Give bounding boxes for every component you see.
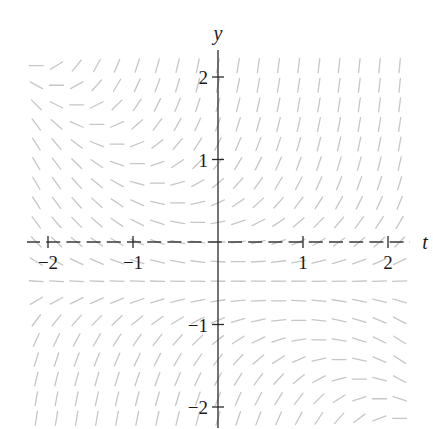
slope-mark (357, 157, 361, 171)
slope-mark (293, 375, 304, 384)
slope-mark (237, 59, 239, 73)
slope-mark (373, 357, 386, 362)
slope-mark (92, 179, 103, 188)
t-tick-label: 1 (298, 252, 308, 273)
slope-mark (332, 377, 346, 381)
slope-mark (111, 298, 124, 303)
slope-mark (75, 392, 78, 406)
slope-mark (298, 59, 300, 73)
slope-mark (92, 80, 101, 90)
slope-mark (256, 118, 260, 131)
slope-mark (192, 180, 204, 187)
slope-mark (156, 392, 160, 405)
slope-mark (251, 261, 265, 262)
slope-mark (335, 217, 344, 228)
slope-mark (111, 180, 123, 187)
slope-mark (156, 412, 159, 426)
slope-mark (51, 62, 63, 69)
slope-mark (175, 98, 180, 111)
slope-mark (397, 196, 402, 209)
slope-mark (191, 201, 205, 204)
y-tick-label: 1 (199, 150, 209, 171)
slope-mark (91, 102, 104, 108)
slope-mark (171, 181, 184, 185)
slope-mark (255, 157, 261, 170)
slope-mark (32, 315, 40, 326)
slope-mark (31, 100, 41, 110)
slope-mark (173, 139, 182, 150)
slope-mark (296, 177, 302, 189)
t-tick-label: −1 (123, 252, 143, 273)
slope-mark (399, 78, 400, 92)
slope-mark (292, 357, 305, 362)
slope-mark (357, 177, 362, 190)
slope-mark (399, 118, 401, 132)
slope-mark (72, 178, 81, 188)
slope-mark (92, 315, 102, 325)
slope-mark (297, 98, 300, 112)
slope-mark (336, 197, 343, 209)
slope-mark (358, 137, 361, 151)
slope-mark (50, 297, 62, 304)
slope-mark (315, 413, 323, 425)
slope-mark (278, 59, 280, 73)
slope-mark (294, 393, 303, 404)
slope-mark (54, 353, 58, 366)
slope-mark (235, 392, 241, 405)
slope-mark (33, 138, 41, 150)
slope-mark (136, 411, 139, 425)
slope-mark (338, 78, 340, 92)
slope-mark (393, 317, 405, 323)
slope-mark (32, 217, 40, 228)
slope-mark (154, 99, 160, 112)
slope-mark (153, 119, 161, 130)
slope-mark (30, 297, 42, 304)
slope-mark (354, 414, 365, 422)
y-axis-label: y (212, 22, 223, 45)
slope-mark (52, 158, 60, 169)
slope-mark (172, 317, 184, 324)
slope-mark (257, 78, 259, 92)
slope-mark (316, 177, 322, 190)
slope-mark (378, 137, 381, 151)
slope-mark (272, 338, 285, 342)
slope-mark (72, 159, 82, 169)
slope-mark (94, 353, 99, 366)
slope-mark (312, 358, 326, 361)
slope-mark (273, 356, 285, 364)
slope-mark (151, 161, 164, 165)
slope-mark (174, 354, 181, 366)
slope-mark (373, 318, 386, 323)
slope-mark (95, 392, 98, 406)
slope-mark (254, 178, 262, 189)
slope-mark (30, 82, 42, 89)
slope-mark (53, 334, 59, 347)
slope-mark (154, 353, 160, 365)
slope-mark (131, 200, 144, 206)
slope-mark (297, 118, 300, 132)
slope-mark (295, 412, 302, 424)
slope-mark (393, 281, 407, 282)
slope-mark (318, 98, 320, 112)
slope-mark (34, 353, 38, 366)
slope-mark (33, 334, 39, 347)
y-tick-label: 2 (199, 67, 209, 88)
slope-mark (313, 376, 325, 383)
slope-mark (50, 281, 64, 282)
slope-mark (114, 353, 119, 366)
slope-mark (194, 354, 202, 366)
slope-mark (171, 260, 185, 263)
slope-mark (256, 412, 261, 425)
slope-mark (95, 372, 99, 385)
slope-mark (272, 261, 286, 263)
slope-mark (232, 336, 244, 344)
slope-mark (115, 372, 119, 385)
slope-mark (171, 221, 185, 223)
slope-mark (33, 177, 40, 189)
slope-mark (237, 78, 240, 92)
slope-mark (194, 138, 202, 150)
slope-mark (236, 118, 240, 131)
y-tick-label: −1 (188, 315, 208, 336)
slope-mark (76, 411, 78, 425)
slope-mark (274, 198, 283, 208)
